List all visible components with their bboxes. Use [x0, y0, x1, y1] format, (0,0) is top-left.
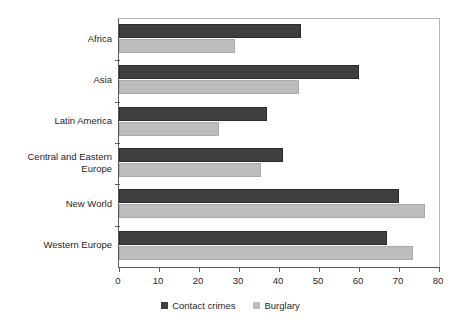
bar[interactable] — [119, 80, 299, 94]
y-axis-tick — [115, 102, 120, 103]
y-axis-tick — [115, 60, 120, 61]
x-axis-tick-label: 50 — [298, 275, 338, 287]
y-axis-label-4: New World — [0, 198, 112, 210]
y-axis-label-5: Western Europe — [0, 239, 112, 251]
x-axis-tick — [439, 267, 440, 272]
x-axis-tick-labels: 01020304050607080 — [118, 275, 438, 289]
bar-group — [119, 19, 439, 60]
x-axis-tick-label: 60 — [338, 275, 378, 287]
bar[interactable] — [119, 122, 219, 136]
bar-group — [119, 226, 439, 267]
x-axis-tick-label: 30 — [218, 275, 258, 287]
x-axis-tick-label: 0 — [98, 275, 138, 287]
bar[interactable] — [119, 24, 301, 38]
chart-legend: Contact crimes Burglary — [0, 300, 461, 311]
legend-item-contact-crimes[interactable]: Contact crimes — [161, 300, 235, 311]
x-axis-tick-label: 40 — [258, 275, 298, 287]
y-axis-label-1: Asia — [0, 74, 112, 86]
bar[interactable] — [119, 246, 413, 260]
bar-chart: Africa Asia Latin America Central and Ea… — [0, 0, 461, 330]
light-gray-swatch-icon — [253, 302, 260, 309]
y-axis-label-3: Central and Eastern Europe — [0, 151, 112, 174]
x-axis-tick — [159, 267, 160, 272]
y-axis-tick — [115, 184, 120, 185]
bar[interactable] — [119, 189, 399, 203]
legend-label-contact-crimes: Contact crimes — [172, 300, 235, 311]
bar-group — [119, 60, 439, 101]
bar[interactable] — [119, 148, 283, 162]
dark-gray-swatch-icon — [161, 302, 168, 309]
bar-group — [119, 143, 439, 184]
x-axis-tick-label: 70 — [378, 275, 418, 287]
x-axis-tick — [119, 267, 120, 272]
legend-item-burglary[interactable]: Burglary — [253, 300, 299, 311]
x-axis-tick-label: 80 — [418, 275, 458, 287]
plot-area — [118, 18, 440, 268]
y-axis-tick — [115, 226, 120, 227]
bar-group — [119, 102, 439, 143]
bar[interactable] — [119, 163, 261, 177]
legend-label-burglary: Burglary — [264, 300, 299, 311]
x-axis-tick — [319, 267, 320, 272]
x-axis-tick-label: 10 — [138, 275, 178, 287]
x-axis-tick — [399, 267, 400, 272]
bar[interactable] — [119, 39, 235, 53]
y-axis-label-2: Latin America — [0, 115, 112, 127]
x-axis-tick — [279, 267, 280, 272]
bar[interactable] — [119, 107, 267, 121]
y-axis-label-0: Africa — [0, 33, 112, 45]
y-axis-tick — [115, 143, 120, 144]
bars-layer — [119, 19, 439, 267]
bar-group — [119, 184, 439, 225]
x-axis-tick — [359, 267, 360, 272]
bar[interactable] — [119, 65, 359, 79]
x-axis-tick — [199, 267, 200, 272]
bar[interactable] — [119, 204, 425, 218]
x-axis-tick-label: 20 — [178, 275, 218, 287]
bar[interactable] — [119, 231, 387, 245]
y-axis-category-labels: Africa Asia Latin America Central and Ea… — [0, 18, 112, 266]
x-axis-tick — [239, 267, 240, 272]
